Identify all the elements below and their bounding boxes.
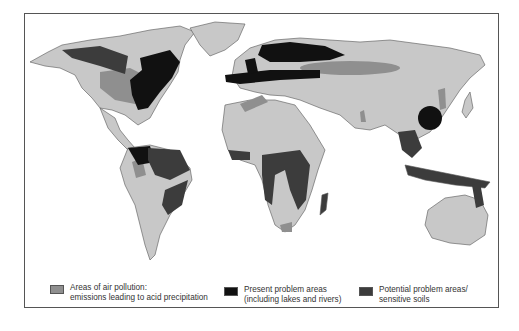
legend-swatch-present-problem xyxy=(224,287,238,296)
legend-item-potential-problem: Potential problem areas/ sensitive soils xyxy=(359,285,468,305)
legend-label: Areas of air pollution: xyxy=(70,283,208,293)
legend-swatch-air-pollution xyxy=(50,285,64,294)
legend-item-present-problem: Present problem areas (including lakes a… xyxy=(224,285,341,305)
japan xyxy=(462,92,473,118)
legend-label: Present problem areas xyxy=(244,285,341,295)
madagascar xyxy=(320,193,328,215)
greenland xyxy=(190,22,245,56)
legend-label: (including lakes and rivers) xyxy=(244,295,341,305)
map-legend: Areas of air pollution: emissions leadin… xyxy=(24,280,499,308)
legend-swatch-potential-problem xyxy=(359,287,373,296)
legend-item-air-pollution: Areas of air pollution: emissions leadin… xyxy=(50,283,208,303)
legend-label: sensitive soils xyxy=(379,295,468,305)
legend-label: emissions leading to acid precipitation xyxy=(70,293,208,303)
legend-label: Potential problem areas/ xyxy=(379,285,468,295)
